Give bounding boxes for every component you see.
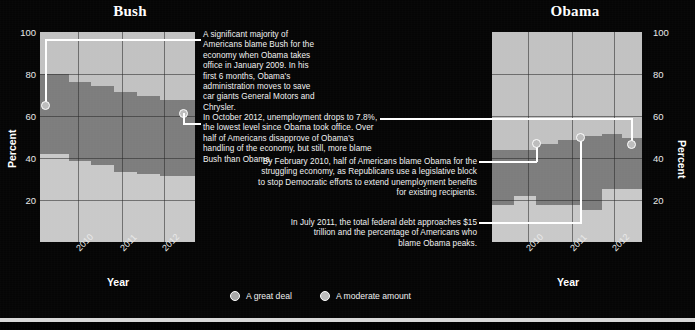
area-great-obama-5: [602, 189, 622, 242]
chart-plot-obama: [492, 32, 642, 242]
area-moderate-bush-5: [160, 100, 195, 176]
legend-item-great-deal[interactable]: A great deal: [230, 291, 292, 301]
legend-dot-moderate-amount-icon: [320, 291, 330, 301]
callout-2-leader-bush-vertical: [183, 113, 185, 123]
legend-item-moderate-amount[interactable]: A moderate amount: [320, 291, 411, 301]
ytick-bush-20: 20: [8, 195, 36, 206]
area-moderate-obama-4: [580, 136, 602, 210]
area-great-bush-4: [137, 174, 160, 242]
axis-title-x-obama: Year: [518, 276, 618, 288]
gridline-bush-2011: [122, 32, 123, 242]
ytick-obama-60: 60: [653, 111, 683, 122]
area-great-bush-2: [91, 165, 114, 242]
callout-3-leader-horizontal: [479, 161, 537, 163]
ytick-obama-80: 80: [653, 69, 683, 80]
callout-3-text: By February 2010, half of Americans blam…: [255, 157, 477, 199]
area-moderate-bush-3: [114, 92, 137, 172]
area-great-bush-1: [69, 161, 91, 242]
callout-4-knob[interactable]: [576, 133, 585, 142]
ytick-bush-60: 60: [8, 111, 36, 122]
gridline-obama-80: [492, 74, 642, 75]
callout-1-knob[interactable]: [41, 101, 50, 110]
axis-title-x-bush: Year: [68, 276, 168, 288]
ytick-bush-80: 80: [8, 69, 36, 80]
legend-dot-great-deal-icon: [230, 291, 240, 301]
callout-4-text: In July 2011, the total federal debt app…: [290, 218, 477, 249]
area-moderate-obama-1: [514, 150, 536, 196]
area-moderate-bush-4: [137, 96, 160, 174]
area-moderate-obama-3: [558, 140, 580, 205]
ytick-obama-100: 100: [653, 27, 683, 38]
gridline-obama-40: [492, 158, 642, 159]
gridline-obama-60: [492, 116, 642, 117]
gridline-obama-20: [492, 200, 642, 201]
area-great-obama-1: [514, 196, 536, 242]
callout-1-leader-vertical: [45, 39, 47, 105]
axis-title-y-obama: Percent: [676, 140, 688, 179]
legend-label-moderate-amount: A moderate amount: [336, 291, 411, 301]
chart-plot-bush: [40, 32, 195, 242]
legend-label-great-deal: A great deal: [246, 291, 292, 301]
callout-3-knob[interactable]: [532, 139, 541, 148]
gridline-obama-2010: [528, 32, 529, 242]
callout-4-leader-vertical: [580, 138, 582, 223]
bottom-strip: [0, 322, 695, 330]
area-great-bush-3: [114, 172, 137, 242]
infographic-root: Bush Obama 100 80 60 40 20 2010 2011 201…: [0, 0, 695, 330]
ytick-obama-20: 20: [653, 195, 683, 206]
chart-legend: A great deal A moderate amount: [230, 286, 470, 306]
gridline-bush-40: [40, 158, 195, 159]
gridline-bush-2012: [164, 32, 165, 242]
callout-4-leader-horizontal: [479, 222, 582, 224]
axis-title-y-bush: Percent: [6, 129, 18, 168]
callout-2-knob-obama[interactable]: [627, 140, 636, 149]
callout-1-leader-horizontal: [45, 39, 201, 41]
gridline-bush-80: [40, 74, 195, 75]
gridline-bush-60: [40, 116, 195, 117]
gridline-obama-2011: [572, 32, 573, 242]
area-great-bush-5: [160, 176, 195, 242]
area-great-bush-0: [40, 154, 69, 242]
panel-title-bush: Bush: [80, 3, 180, 20]
gridline-bush-20: [40, 200, 195, 201]
ytick-bush-100: 100: [8, 27, 36, 38]
area-moderate-obama-2: [536, 144, 558, 205]
gridline-bush-2010: [78, 32, 79, 242]
callout-2-leader-bush-horizontal: [183, 123, 201, 125]
gridline-obama-2012: [614, 32, 615, 242]
area-moderate-bush-1: [69, 82, 91, 161]
callout-1-text: A significant majority of Americans blam…: [203, 30, 323, 113]
area-moderate-obama-5: [602, 134, 622, 189]
area-moderate-bush-2: [91, 86, 114, 165]
panel-title-obama: Obama: [520, 3, 630, 20]
callout-2-leader-obama-horizontal: [380, 118, 633, 120]
